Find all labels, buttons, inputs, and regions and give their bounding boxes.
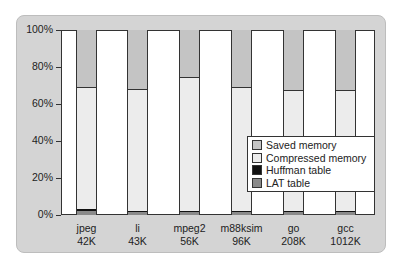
y-tick-label: 80% bbox=[13, 60, 53, 72]
y-tick-label: 100% bbox=[13, 23, 53, 35]
legend-item-compressed-memory: Compressed memory bbox=[252, 152, 370, 165]
x-label-gcc: gcc1012K bbox=[316, 222, 376, 248]
segment-saved-memory bbox=[232, 30, 251, 88]
segment-saved-memory bbox=[180, 30, 199, 78]
x-label-mpeg2: mpeg256K bbox=[160, 222, 220, 248]
segment-lat-table bbox=[180, 212, 199, 215]
legend-item-saved-memory: Saved memory bbox=[252, 139, 370, 152]
swatch-lat-table bbox=[252, 178, 262, 188]
y-tick bbox=[56, 215, 61, 216]
x-label-name: gcc bbox=[316, 222, 376, 235]
y-tick-label: 40% bbox=[13, 134, 53, 146]
x-label-name: li bbox=[108, 222, 168, 235]
x-label-go: go208K bbox=[264, 222, 324, 248]
x-label-size: 1012K bbox=[316, 235, 376, 248]
legend-item-lat-table: LAT table bbox=[252, 177, 370, 190]
legend-item-huffman-table: Huffman table bbox=[252, 164, 370, 177]
x-label-name: mpeg2 bbox=[160, 222, 220, 235]
y-tick bbox=[56, 141, 61, 142]
x-label-size: 208K bbox=[264, 235, 324, 248]
legend-label: Huffman table bbox=[266, 164, 331, 176]
segment-saved-memory bbox=[336, 30, 355, 91]
bar-jpeg bbox=[76, 30, 97, 215]
segment-saved-memory bbox=[128, 30, 147, 90]
segment-compressed-memory bbox=[128, 90, 147, 211]
swatch-saved-memory bbox=[252, 140, 262, 150]
x-label-size: 96K bbox=[212, 235, 272, 248]
x-label-size: 56K bbox=[160, 235, 220, 248]
segment-saved-memory bbox=[284, 30, 303, 91]
segment-huffman-table bbox=[77, 209, 96, 212]
segment-huffman-table bbox=[180, 211, 199, 212]
y-tick bbox=[56, 178, 61, 179]
segment-huffman-table bbox=[336, 211, 355, 212]
swatch-huffman-table bbox=[252, 165, 262, 175]
y-tick-label: 60% bbox=[13, 97, 53, 109]
y-tick bbox=[56, 67, 61, 68]
segment-huffman-table bbox=[232, 211, 251, 212]
legend-label: Compressed memory bbox=[266, 152, 366, 164]
segment-lat-table bbox=[128, 212, 147, 215]
legend-label: Saved memory bbox=[266, 139, 337, 151]
y-tick bbox=[56, 30, 61, 31]
segment-lat-table bbox=[232, 212, 251, 215]
x-label-name: go bbox=[264, 222, 324, 235]
segment-compressed-memory bbox=[180, 78, 199, 211]
segment-huffman-table bbox=[284, 211, 303, 212]
bar-mpeg2 bbox=[179, 30, 200, 215]
y-tick-label: 20% bbox=[13, 171, 53, 183]
swatch-compressed-memory bbox=[252, 153, 262, 163]
x-label-name: m88ksim bbox=[212, 222, 272, 235]
segment-huffman-table bbox=[128, 211, 147, 212]
bar-li bbox=[127, 30, 148, 215]
segment-lat-table bbox=[284, 212, 303, 215]
y-tick bbox=[56, 104, 61, 105]
segment-lat-table bbox=[77, 211, 96, 215]
segment-compressed-memory bbox=[77, 88, 96, 208]
x-label-m88ksim: m88ksim96K bbox=[212, 222, 272, 248]
y-tick-label: 0% bbox=[13, 208, 53, 220]
x-label-size: 43K bbox=[108, 235, 168, 248]
x-label-li: li43K bbox=[108, 222, 168, 248]
segment-saved-memory bbox=[77, 30, 96, 88]
segment-lat-table bbox=[336, 212, 355, 215]
legend: Saved memory Compressed memory Huffman t… bbox=[247, 136, 375, 192]
legend-label: LAT table bbox=[266, 177, 310, 189]
